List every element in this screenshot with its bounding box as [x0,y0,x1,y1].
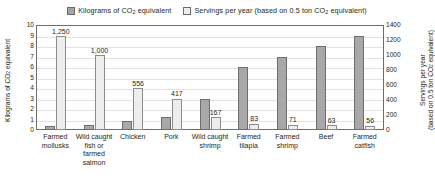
y-axis-right-tick-label: 600 [386,82,397,88]
x-axis-category-label: Farmed tilapia [229,133,268,167]
y-axis-right-tick-label: 200 [386,112,397,118]
bar-value-label: 71 [289,116,297,123]
y-axis-right-title-line2-post: equivalent) [426,30,433,64]
bar-kilograms-co2[interactable] [45,126,55,130]
bar-value-label: 56 [366,117,374,124]
y-axis-left-title-subscript: 2 [5,70,11,73]
bar-value-label: 167 [210,109,222,116]
bar-value-label: 417 [171,90,183,97]
y-axis-right-title-line2-pre: (based on 0.5 ton CO [426,67,433,130]
bar-kilograms-co2[interactable] [316,46,326,130]
y-axis-left-tick-label: 3 [30,96,34,102]
y-axis-right-tick-label: 400 [386,97,397,103]
legend-label-text-pre: Kilograms of CO [78,6,132,15]
y-axis-right-tick-label: 1000 [386,52,401,58]
x-axis-category-label: Chicken [113,133,152,167]
bar-kilograms-co2[interactable] [122,121,132,130]
bar-group: 63 [307,25,346,130]
bar-group: 56 [345,25,384,130]
y-axis-left-tick-label: 9 [30,33,34,39]
bar-servings-per-year[interactable]: 56 [365,126,375,130]
bar-value-label: 83 [250,115,258,122]
x-axis-category-label: Farmed catfish [345,133,384,167]
chart-legend: Kilograms of CO2 equivalent Servings per… [0,6,434,15]
bar-group: 83 [229,25,268,130]
bar-kilograms-co2[interactable] [200,99,210,131]
y-axis-left-title-post: equivalent [4,38,11,70]
bar-servings-per-year[interactable]: 1,250 [56,36,66,130]
y-axis-left-tick-label: 5 [30,75,34,81]
y-axis-right-title-subscript: 2 [427,64,433,67]
bar-value-label: 1,250 [52,28,70,35]
x-axis-category-label: Farmed mollusks [36,133,75,167]
y-axis-left-tick-label: 10 [27,22,34,28]
bar-servings-per-year[interactable]: 71 [288,125,298,130]
y-axis-right-title: Servings per year(based on 0.5 ton CO2 e… [419,26,435,134]
bar-group: 167 [191,25,230,130]
bar-kilograms-co2[interactable] [277,57,287,131]
y-axis-left-title: Kilograms of CO2 equivalent [4,30,13,130]
bar-kilograms-co2[interactable] [84,125,94,130]
bar-value-label: 556 [132,80,144,87]
legend-item-kilograms-co2[interactable]: Kilograms of CO2 equivalent [67,6,171,15]
y-axis-right-title-line1: Servings per year [419,54,426,106]
bar-kilograms-co2[interactable] [238,67,248,130]
y-axis-right-tick-label: 1400 [386,22,401,28]
bar-servings-per-year[interactable]: 167 [211,117,221,130]
y-axis-left-tick-label: 8 [30,43,34,49]
y-axis-left-tick-label: 2 [30,106,34,112]
bar-group: 1,250 [36,25,75,130]
bar-group: 71 [268,25,307,130]
bar-servings-per-year[interactable]: 556 [133,88,143,130]
legend-label-text-post: equivalent) [328,6,366,15]
y-axis-left-tick-label: 7 [30,54,34,60]
bar-group: 556 [113,25,152,130]
bar-servings-per-year[interactable]: 1,000 [95,55,105,130]
y-axis-right-tick-label: 0 [386,127,390,133]
bar-kilograms-co2[interactable] [354,36,364,131]
y-axis-left-tick-label: 6 [30,64,34,70]
bar-servings-per-year[interactable]: 417 [172,99,182,130]
legend-swatch-dark [67,7,75,15]
x-axis-category-labels: Farmed mollusksWild caught fish or farme… [36,133,384,167]
y-axis-left-tick-label: 1 [30,117,34,123]
legend-label-kilograms-co2: Kilograms of CO2 equivalent [78,6,171,15]
legend-label-subscript: 2 [132,9,135,15]
y-axis-left-ticks: 109876543210 [18,25,34,130]
y-axis-right-tick-label: 800 [386,67,397,73]
y-axis-left-title-pre: Kilograms of CO [4,73,11,121]
legend-swatch-light [183,7,191,15]
x-axis-category-label: Wild caught fish or farmed salmon [75,133,114,167]
x-axis-category-label: Farmed shrimp [268,133,307,167]
bar-servings-per-year[interactable]: 83 [249,124,259,130]
x-axis-category-label: Pork [152,133,191,167]
bar-group: 417 [152,25,191,130]
legend-label-text-pre: Servings per year (based on 0.5 ton CO [194,6,325,15]
bar-kilograms-co2[interactable] [161,117,171,130]
bar-value-label: 1,000 [91,47,109,54]
x-axis-category-label: Beef [307,133,346,167]
bar-value-label: 63 [328,117,336,124]
y-axis-left-tick-label: 0 [30,127,34,133]
bar-group: 1,000 [75,25,114,130]
x-axis-category-label: Wild caught shrimp [191,133,230,167]
y-axis-right-tick-label: 1200 [386,37,401,43]
bar-groups: 1,2501,00055641716783716356 [36,25,384,130]
legend-label-text-post: equivalent [136,6,172,15]
bar-servings-per-year[interactable]: 63 [327,125,337,130]
legend-item-servings-per-year[interactable]: Servings per year (based on 0.5 ton CO2 … [183,6,366,15]
legend-label-subscript: 2 [325,9,328,15]
y-axis-left-tick-label: 4 [30,85,34,91]
legend-label-servings-per-year: Servings per year (based on 0.5 ton CO2 … [194,6,366,15]
y-axis-right-ticks: 1400120010008006004002000 [386,25,412,130]
